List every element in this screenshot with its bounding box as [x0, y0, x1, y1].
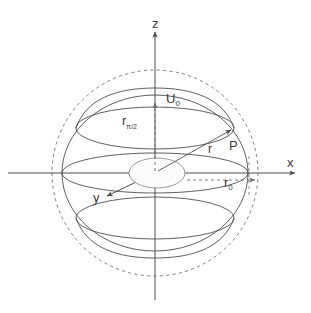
equatorial-radius-label: rπ/2: [122, 114, 137, 127]
position-vector-r: [158, 130, 231, 171]
reference-radius-label-subscript: 0: [228, 183, 232, 192]
diagram-svg: [0, 0, 311, 313]
point-p-label: P: [229, 139, 238, 152]
reference-radius-label: r0: [224, 176, 233, 189]
figure-canvas: z x y U0 rπ/2 r P r0: [0, 0, 311, 313]
x-axis-label: x: [287, 156, 294, 169]
position-vector-label: r: [208, 143, 212, 155]
center-disk-ellipse: [129, 158, 185, 188]
equatorial-radius-label-subscript: π/2: [126, 123, 137, 130]
y-axis-label: y: [93, 191, 100, 204]
potential-surface-label-text: U: [166, 91, 175, 106]
potential-surface-label: U0: [166, 92, 180, 105]
z-axis-label: z: [152, 17, 159, 30]
potential-surface-label-subscript: 0: [175, 99, 179, 108]
